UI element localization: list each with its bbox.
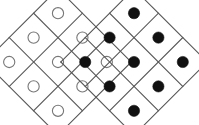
- figure-canvas: [0, 0, 199, 125]
- open-circle-marker: [77, 32, 88, 43]
- open-circle-marker: [4, 56, 15, 67]
- filled-circle-marker: [80, 56, 91, 67]
- open-circle-marker: [28, 81, 39, 92]
- diagram-svg: [0, 0, 199, 125]
- filled-circle-marker: [177, 56, 188, 67]
- canvas-background: [0, 0, 199, 125]
- filled-circle-marker: [128, 56, 139, 67]
- open-circle-marker: [52, 56, 63, 67]
- filled-circle-marker: [104, 32, 115, 43]
- open-circle-marker: [28, 32, 39, 43]
- filled-circle-marker: [153, 81, 164, 92]
- open-circle-marker: [52, 105, 63, 116]
- open-circle-marker: [52, 8, 63, 19]
- open-circle-marker: [101, 56, 112, 67]
- filled-circle-marker: [153, 32, 164, 43]
- filled-circle-marker: [128, 105, 139, 116]
- filled-circle-marker: [104, 81, 115, 92]
- filled-circle-marker: [128, 8, 139, 19]
- open-circle-marker: [77, 81, 88, 92]
